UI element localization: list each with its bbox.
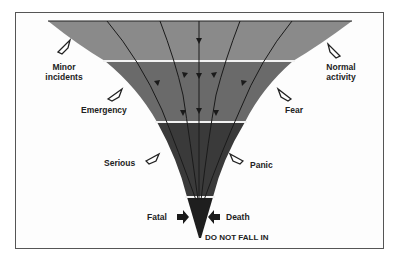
funnel-graphic bbox=[0, 0, 397, 266]
arrow-panic-icon bbox=[230, 154, 243, 164]
label-fatal: Fatal bbox=[147, 212, 167, 222]
bottom-caption: DO NOT FALL IN bbox=[205, 233, 268, 243]
arrow-death-icon bbox=[208, 210, 220, 224]
arrow-minor-icon bbox=[58, 40, 70, 54]
arrow-fatal-icon bbox=[177, 210, 189, 224]
label-line: incidents bbox=[40, 72, 88, 82]
arrow-emergency-icon bbox=[108, 89, 122, 101]
label-emergency: Emergency bbox=[81, 105, 127, 115]
arrow-serious-icon bbox=[146, 154, 159, 164]
label-normal-activity: Normal activity bbox=[318, 62, 364, 82]
label-death: Death bbox=[226, 212, 250, 222]
arrow-normal-icon bbox=[328, 44, 340, 58]
label-line: Minor bbox=[40, 62, 88, 72]
arrow-fear-icon bbox=[278, 89, 291, 101]
label-fear: Fear bbox=[285, 105, 303, 115]
label-minor-incidents: Minor incidents bbox=[40, 62, 88, 82]
label-panic: Panic bbox=[250, 160, 273, 170]
label-line: Normal bbox=[318, 62, 364, 72]
label-serious: Serious bbox=[104, 158, 135, 168]
label-line: activity bbox=[318, 72, 364, 82]
